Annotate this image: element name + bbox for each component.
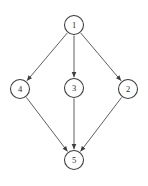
node-label-3: 3 bbox=[72, 83, 76, 93]
node-label-2: 2 bbox=[126, 84, 130, 94]
node-3[interactable]: 3 bbox=[65, 79, 84, 98]
edge-2-to-5 bbox=[80, 97, 121, 151]
node-1[interactable]: 1 bbox=[65, 16, 84, 35]
node-4[interactable]: 4 bbox=[11, 80, 30, 99]
arrowhead-3-to-5 bbox=[72, 144, 77, 149]
edge-1-to-4 bbox=[27, 33, 67, 81]
edge-4-to-5 bbox=[26, 97, 67, 151]
arrowhead-1-to-3 bbox=[72, 72, 77, 77]
edge-1-to-2 bbox=[81, 33, 121, 81]
arrowhead-4-to-5 bbox=[63, 146, 68, 152]
node-label-1: 1 bbox=[72, 20, 76, 30]
node-label-5: 5 bbox=[72, 155, 76, 165]
graph-diagram: 14325 bbox=[0, 0, 148, 186]
arrowhead-2-to-5 bbox=[80, 146, 85, 152]
node-5[interactable]: 5 bbox=[65, 151, 84, 170]
node-2[interactable]: 2 bbox=[119, 80, 138, 99]
